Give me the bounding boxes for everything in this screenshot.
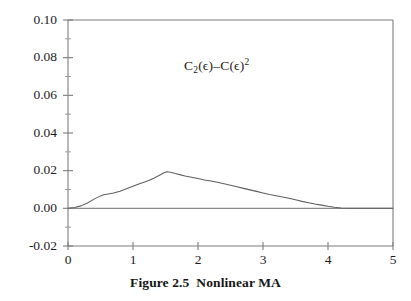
data-series-layer (68, 172, 393, 209)
y-axis-tick-label: 0.06 (33, 87, 57, 102)
figure-caption: Figure 2.5Nonlinear MA (0, 275, 411, 291)
y-axis-tick-label: 0.10 (33, 12, 57, 27)
y-axis-tick-label: 0.02 (33, 162, 57, 177)
x-axis-tick-label: 0 (65, 252, 72, 267)
data-curve-series-0 (68, 172, 393, 209)
y-axis-tick-label: 0.00 (33, 200, 57, 215)
y-axis-tick-label: 0.08 (33, 49, 57, 64)
chart-plot: -0.020.000.020.040.060.080.10 012345 (0, 0, 411, 301)
annotation-middle: (ϵ)–C(ϵ) (198, 58, 244, 73)
x-axis-tick-labels: 012345 (65, 252, 397, 267)
y-axis-tick-labels: -0.020.000.020.040.060.080.10 (29, 12, 57, 253)
tick-marks-layer (63, 20, 393, 250)
y-axis-tick-label: 0.04 (33, 125, 57, 140)
x-axis-tick-label: 3 (260, 252, 267, 267)
curve-annotation: C2(ϵ)–C(ϵ)2 (184, 57, 249, 75)
x-axis-tick-label: 5 (390, 252, 397, 267)
x-axis-tick-label: 1 (130, 252, 137, 267)
axes-layer (68, 20, 393, 246)
annotation-c-main: C (184, 58, 193, 73)
x-axis-tick-label: 4 (325, 252, 332, 267)
caption-prefix: Figure 2.5 (130, 275, 189, 290)
caption-title: Nonlinear MA (196, 275, 281, 290)
x-axis-tick-label: 2 (195, 252, 202, 267)
figure-container: -0.020.000.020.040.060.080.10 012345 C2(… (0, 0, 411, 301)
annotation-exponent: 2 (244, 57, 249, 67)
y-axis-tick-label: -0.02 (29, 238, 57, 253)
